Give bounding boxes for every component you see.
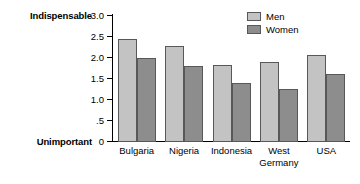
y-tick-mark — [107, 99, 112, 100]
plot-area — [113, 14, 350, 142]
y-tick-mark — [107, 141, 112, 142]
bar-women-west-germany — [279, 89, 298, 142]
y-tick-label: .5 — [74, 116, 104, 126]
y-tick-label: 1.0 — [74, 95, 104, 105]
legend-label-men: Men — [266, 12, 284, 22]
y-tick-label: 3.0 — [74, 11, 104, 21]
bar-group — [165, 14, 203, 142]
legend-swatch-women-icon — [247, 25, 261, 34]
y-tick-mark — [107, 120, 112, 121]
bar-women-usa — [326, 74, 345, 142]
bar-group — [118, 14, 156, 142]
y-tick-label: 2.0 — [74, 53, 104, 63]
bar-men-indonesia — [213, 65, 232, 142]
y-tick-label: 2.5 — [74, 32, 104, 42]
bar-chart-figure: Indispensable Unimportant 3.02.52.01.51.… — [0, 0, 360, 184]
x-category-label: Indonesia — [208, 145, 255, 157]
y-tick-label: 0 — [74, 137, 104, 147]
legend-swatch-men-icon — [247, 12, 261, 21]
y-tick-mark — [107, 57, 112, 58]
y-tick-mark — [107, 78, 112, 79]
legend-item-men: Men — [247, 11, 299, 22]
bar-men-usa — [307, 55, 326, 142]
legend-label-women: Women — [266, 25, 299, 35]
bar-men-bulgaria — [118, 39, 137, 142]
bar-group — [307, 14, 345, 142]
bar-men-nigeria — [165, 46, 184, 142]
x-category-label: Bulgaria — [113, 145, 160, 157]
bar-group — [213, 14, 251, 142]
chart-legend: Men Women — [247, 11, 299, 37]
bar-women-indonesia — [232, 83, 251, 142]
bar-men-west-germany — [260, 62, 279, 141]
x-category-label: Nigeria — [160, 145, 207, 157]
bar-women-bulgaria — [137, 58, 156, 142]
y-tick-mark — [107, 36, 112, 37]
x-category-label: West Germany — [255, 145, 302, 168]
y-tick-mark — [107, 15, 112, 16]
bar-women-nigeria — [184, 66, 203, 142]
x-category-label: USA — [303, 145, 350, 157]
legend-item-women: Women — [247, 24, 299, 35]
y-tick-label: 1.5 — [74, 74, 104, 84]
